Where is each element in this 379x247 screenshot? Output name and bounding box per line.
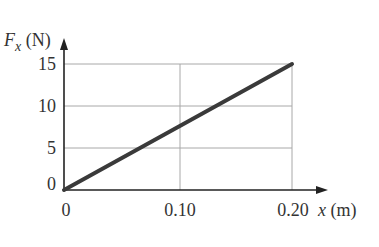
- y-axis-label: Fx (N): [3, 30, 51, 54]
- ytick-5: 5: [47, 138, 56, 158]
- xtick-0: 0: [62, 200, 71, 220]
- ytick-15: 15: [38, 54, 56, 74]
- ytick-0: 0: [47, 174, 56, 194]
- y-axis-arrow-icon: [60, 38, 68, 50]
- x-axis-arrow-icon: [316, 186, 328, 194]
- data-line-fx: [64, 64, 292, 190]
- xtick-020: 0.20: [277, 200, 309, 220]
- xtick-010: 0.10: [164, 200, 196, 220]
- force-displacement-chart: 15 10 5 0 0 0.10 0.20 x (m) Fx (N): [0, 0, 379, 247]
- ytick-10: 10: [38, 96, 56, 116]
- x-axis-label: x (m): [317, 200, 357, 221]
